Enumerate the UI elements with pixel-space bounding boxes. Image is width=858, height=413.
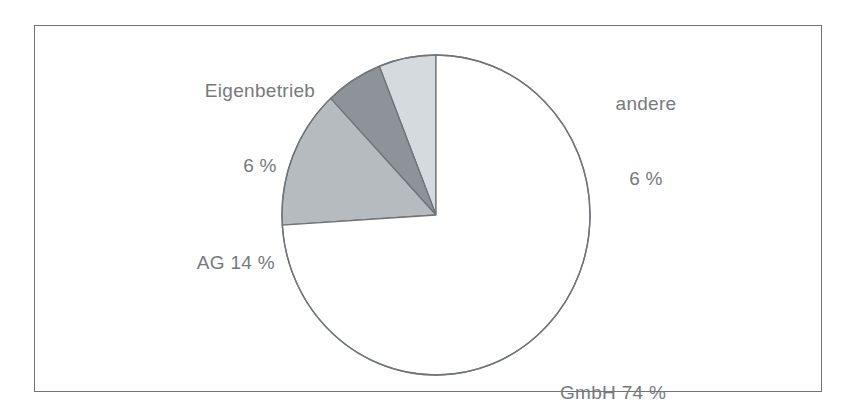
figure-root: Eigenbetrieb 6 % andere 6 % AG 14 % GmbH… bbox=[0, 0, 858, 413]
slice-label-andere-name: andere bbox=[576, 91, 716, 116]
slice-label-eigenbetrieb-value: 6 % bbox=[175, 153, 345, 178]
slice-label-ag-text: AG 14 % bbox=[155, 250, 275, 275]
slice-label-ag: AG 14 % bbox=[155, 200, 275, 325]
slice-label-eigenbetrieb: Eigenbetrieb 6 % bbox=[175, 28, 345, 228]
slice-label-gmbh-text: GmbH 74 % bbox=[560, 380, 740, 405]
slice-label-andere-value: 6 % bbox=[576, 166, 716, 191]
slice-label-andere: andere 6 % bbox=[576, 41, 716, 241]
slice-label-gmbh: GmbH 74 % bbox=[560, 330, 740, 413]
slice-label-eigenbetrieb-name: Eigenbetrieb bbox=[175, 78, 345, 103]
